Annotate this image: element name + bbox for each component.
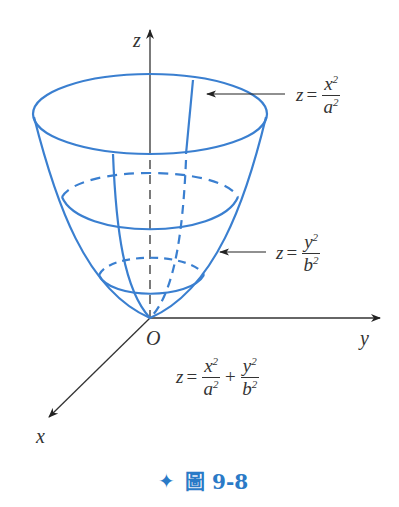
denominator: a2 <box>204 378 219 399</box>
z-axis-label: z <box>133 30 141 50</box>
yz-trace-upper <box>186 80 193 154</box>
eq-lhs: z <box>276 242 283 264</box>
plus-sign: + <box>225 366 236 388</box>
denominator: a2 <box>324 96 339 117</box>
fraction: x2 a2 <box>322 74 340 117</box>
x-axis-label: x <box>36 426 45 446</box>
pointer-arrows <box>207 94 285 252</box>
numerator: x2 <box>322 74 340 96</box>
origin-label: O <box>146 328 160 348</box>
caption-text: 圖 9-8 <box>185 466 248 495</box>
numerator: y2 <box>302 232 320 254</box>
eq-sign: = <box>186 366 197 388</box>
figure-caption: ✦ 圖 9-8 <box>158 466 248 495</box>
eq-lhs: z <box>296 84 303 106</box>
eq-sign: = <box>286 242 297 264</box>
denominator: b2 <box>242 378 257 399</box>
eq-sign: = <box>306 84 317 106</box>
equation-xz-trace: z = x2 a2 <box>296 74 342 117</box>
denominator: b2 <box>304 254 319 275</box>
numerator: x2 <box>202 356 220 378</box>
numerator: y2 <box>241 356 259 378</box>
equation-surface: z = x2 a2 + y2 b2 <box>176 356 261 399</box>
x-axis <box>49 318 150 417</box>
fraction-y: y2 b2 <box>241 356 259 399</box>
low-ring-back <box>99 258 204 275</box>
sparkle-icon: ✦ <box>158 469 175 493</box>
eq-lhs: z <box>176 366 183 388</box>
y-axis-label: y <box>360 328 369 348</box>
fraction: y2 b2 <box>302 232 320 275</box>
fraction-x: x2 a2 <box>202 356 220 399</box>
equation-yz-trace: z = y2 b2 <box>276 232 322 275</box>
